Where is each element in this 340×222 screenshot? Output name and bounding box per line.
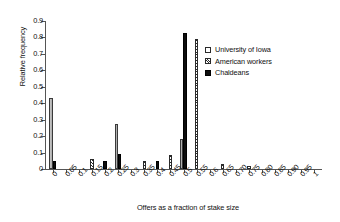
legend-swatch-icon: [205, 58, 211, 64]
bar-group: [190, 21, 203, 169]
legend-item: University of Iowa: [205, 44, 272, 56]
bar-group: [177, 21, 190, 169]
bar-group: [151, 21, 164, 169]
bar-chald: [53, 161, 56, 169]
bar-group: [85, 21, 98, 169]
legend-label: American workers: [215, 56, 272, 68]
legend-item: American workers: [205, 56, 272, 68]
plot-area: [46, 21, 321, 169]
legend-label: University of Iowa: [215, 44, 271, 56]
x-tick-label: 1: [311, 169, 320, 178]
bar-group: [59, 21, 72, 169]
legend-item: Chaldeans: [205, 67, 272, 79]
legend-swatch-icon: [205, 70, 211, 76]
chart-legend: University of IowaAmerican workersChalde…: [205, 44, 272, 79]
bar-amer: [195, 39, 198, 169]
bar-group: [295, 21, 308, 169]
bar-group: [111, 21, 124, 169]
y-tick-label: 0.7: [17, 49, 43, 58]
bar-group: [98, 21, 111, 169]
bar-group: [72, 21, 85, 169]
y-tick-label: 0.1: [17, 148, 43, 157]
bar-group: [125, 21, 138, 169]
x-axis-label: Offers as a fraction of stake size: [0, 203, 340, 212]
bar-chald: [183, 33, 186, 169]
bar-group: [282, 21, 295, 169]
bar-group: [46, 21, 59, 169]
y-tick-label: 0.9: [17, 16, 43, 25]
y-tick-label: 0.5: [17, 82, 43, 91]
y-tick-label: 0.2: [17, 131, 43, 140]
y-tick-label: 0.3: [17, 115, 43, 124]
y-tick-label: 0.8: [17, 32, 43, 41]
bar-iowa: [49, 98, 52, 169]
y-tick-label: 0.4: [17, 98, 43, 107]
bar-group: [308, 21, 321, 169]
bar-chart: Relative frequency 00.10.20.30.40.50.60.…: [0, 0, 340, 222]
bar-group: [138, 21, 151, 169]
y-tick-label: 0: [17, 164, 43, 173]
y-tick-label: 0.6: [17, 65, 43, 74]
legend-swatch-icon: [205, 47, 211, 53]
bar-group: [164, 21, 177, 169]
legend-label: Chaldeans: [215, 67, 249, 79]
x-tick-label: 0: [50, 169, 59, 178]
